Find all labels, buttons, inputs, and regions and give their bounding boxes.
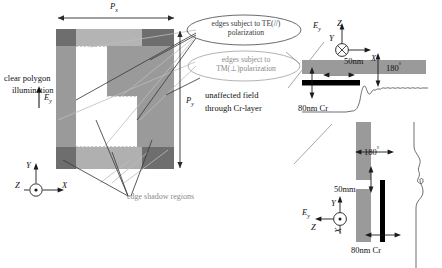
period-x-dimension (58, 15, 174, 20)
unaffected-field-line2: through Cr-layer (205, 103, 262, 113)
illumination-field-label: Ey (44, 92, 52, 104)
figure-canvas: Px Py clear polygon illumination Ey Y X … (0, 0, 442, 268)
inset-bottom-axis-label-y: Y (331, 198, 336, 208)
inset-bottom-field-profile (414, 122, 423, 268)
inset-bottom-cr-bar (380, 180, 385, 242)
inset-top-axis-triad (336, 23, 371, 56)
inset-bottom-thickness-label: 50mm (334, 184, 356, 194)
inset-top-axis-label-x: X (371, 53, 376, 63)
main-axis-label-y: Y (26, 160, 31, 170)
inset-top-axis-label-y: Y (329, 33, 334, 43)
main-axis-label-z: Z (15, 180, 20, 190)
inset-bottom-cr-label: 80nm Cr (351, 245, 381, 255)
inset-top-cr-bar (302, 80, 360, 86)
corner-shadow-top-left (56, 29, 76, 46)
period-y-dimension (177, 31, 182, 168)
inset-top-axis-label-z: Z (337, 18, 342, 28)
inset-top-thickness-label: 50nm (344, 56, 363, 66)
period-y-label: Py (186, 95, 194, 107)
inset-top-phase-label: 180° (386, 62, 401, 73)
unaffected-field-line1: unaffected field (205, 90, 258, 100)
illumination-label-line1: clear polygon (4, 73, 51, 83)
inset-top-field-label: Ey (313, 20, 321, 32)
inset-bottom-axis-label-x: X (333, 228, 343, 233)
te-callout-line2: polarization (188, 28, 304, 38)
main-axis-label-x: X (62, 180, 67, 190)
inset-top-cr-label: 80nm Cr (298, 103, 328, 113)
period-x-label: Px (110, 1, 118, 13)
edge-shadow-regions-label: edge shadow regions (127, 192, 194, 202)
inset-bottom-axis-label-z: Z (311, 222, 316, 232)
inset-bottom-phase-label: 180° (364, 146, 379, 157)
inset-bottom-field-label: Ey (302, 207, 310, 219)
inset-bottom-etch-step (356, 180, 371, 189)
inset-bottom-leader (294, 124, 332, 164)
inset-top-substrate-bar (302, 60, 426, 74)
